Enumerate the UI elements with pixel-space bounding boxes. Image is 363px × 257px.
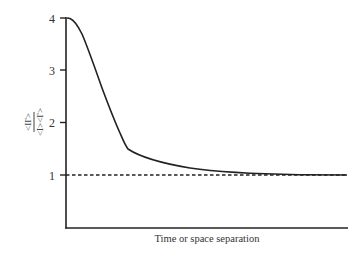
- svg-text:3: 3: [49, 64, 55, 78]
- chart-canvas: 4 3 2 1: [0, 0, 363, 257]
- svg-text:4: 4: [49, 12, 55, 26]
- y-ticks: [60, 18, 66, 175]
- svg-text:2: 2: [49, 116, 55, 130]
- y-axis-label: <II'> <I><I'>: [20, 100, 48, 144]
- y-label-numerator: <II'>: [24, 112, 35, 132]
- svg-text:1: 1: [49, 169, 55, 183]
- correlation-curve: [67, 18, 347, 175]
- y-label-denominator: <I><I'>: [35, 108, 45, 136]
- y-tick-labels: 4 3 2 1: [49, 12, 55, 183]
- x-axis-label: Time or space separation: [66, 233, 348, 244]
